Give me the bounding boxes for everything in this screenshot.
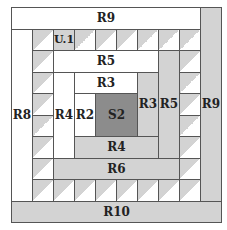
triangle-unit bbox=[179, 115, 201, 138]
block-label: S2 bbox=[108, 108, 125, 122]
block-label: R3 bbox=[97, 76, 115, 90]
block-r3-top: R3 bbox=[74, 72, 138, 95]
block-r10: R10 bbox=[11, 201, 222, 224]
block-label: R3 bbox=[139, 97, 157, 111]
triangle-unit bbox=[179, 179, 201, 202]
triangle-unit bbox=[32, 158, 54, 181]
triangle-unit bbox=[32, 29, 54, 52]
triangle-unit bbox=[179, 136, 201, 159]
block-label: R5 bbox=[160, 97, 178, 111]
triangle-unit bbox=[32, 136, 54, 159]
block-label: R5 bbox=[97, 54, 115, 68]
triangle-unit bbox=[32, 115, 54, 138]
triangle-unit bbox=[116, 179, 138, 202]
block-label: R4 bbox=[55, 108, 73, 122]
block-r3-right: R3 bbox=[137, 72, 159, 138]
block-r9-top: R9 bbox=[11, 7, 201, 30]
triangle-unit bbox=[74, 179, 96, 202]
block-r6: R6 bbox=[53, 158, 180, 181]
block-r9-right: R9 bbox=[200, 7, 222, 202]
triangle-unit bbox=[179, 72, 201, 95]
triangle-unit bbox=[179, 50, 201, 73]
block-label: R2 bbox=[76, 108, 94, 122]
quilt-diagram: U.1R9R9R10R8R5R5R4R4R3R3R2S2R6 bbox=[11, 7, 221, 222]
block-r4-left: R4 bbox=[53, 72, 75, 159]
triangle-unit bbox=[158, 179, 180, 202]
block-label: R6 bbox=[107, 162, 125, 176]
block-s2: S2 bbox=[95, 93, 138, 137]
block-label: R10 bbox=[103, 205, 130, 219]
triangle-unit bbox=[95, 179, 117, 202]
triangle-unit bbox=[53, 179, 75, 202]
triangle-unit bbox=[95, 29, 117, 52]
triangle-unit bbox=[158, 29, 180, 52]
block-label: R8 bbox=[13, 108, 31, 122]
block-r8: R8 bbox=[11, 29, 33, 202]
triangle-unit bbox=[74, 29, 96, 52]
block-r5-right: R5 bbox=[158, 50, 180, 159]
triangle-unit bbox=[32, 50, 54, 73]
block-r2: R2 bbox=[74, 93, 96, 137]
triangle-unit bbox=[179, 93, 201, 116]
block-r5-top: R5 bbox=[53, 50, 159, 73]
triangle-unit bbox=[116, 29, 138, 52]
block-label: R4 bbox=[107, 140, 125, 154]
block-label: R9 bbox=[97, 11, 115, 25]
triangle-unit bbox=[32, 72, 54, 95]
triangle-unit bbox=[179, 158, 201, 181]
triangle-unit bbox=[179, 29, 201, 52]
triangle-unit bbox=[137, 179, 159, 202]
triangle-unit bbox=[32, 93, 54, 116]
triangle-label: U.1 bbox=[54, 30, 74, 51]
triangle-unit-labeled: U.1 bbox=[53, 29, 75, 52]
triangle-unit bbox=[137, 29, 159, 52]
block-label: R9 bbox=[202, 97, 220, 111]
triangle-unit bbox=[32, 179, 54, 202]
block-r4-bottom: R4 bbox=[74, 136, 159, 159]
